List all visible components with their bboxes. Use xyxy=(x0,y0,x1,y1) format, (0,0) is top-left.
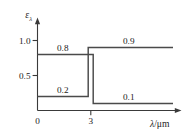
series-label-0-1: 0.1 xyxy=(123,92,135,102)
series-label-0-8: 0.8 xyxy=(57,43,69,53)
x-tick-label-3: 3 xyxy=(89,116,94,126)
series-label-0-9: 0.9 xyxy=(123,36,135,46)
y-axis-arrow-icon xyxy=(35,18,40,25)
chart-figure: 1.0 0.5 0 3 0.8 0.2 0.9 0.1 ελ λ/μm xyxy=(0,0,195,137)
x-axis-title-unit: /μm xyxy=(154,118,170,129)
axes-group xyxy=(33,18,182,116)
emissivity-step-plot: 1.0 0.5 0 3 0.8 0.2 0.9 0.1 ελ λ/μm xyxy=(0,0,195,137)
x-axis-title: λ/μm xyxy=(149,118,170,129)
y-axis-title: ελ xyxy=(25,9,32,22)
series-label-0-2: 0.2 xyxy=(57,85,69,95)
x-tick-label-0: 0 xyxy=(35,116,40,126)
x-axis-arrow-icon xyxy=(175,108,182,113)
y-axis-title-subscript: λ xyxy=(28,15,32,22)
y-tick-label-1-0: 1.0 xyxy=(19,36,31,46)
y-tick-label-0-5: 0.5 xyxy=(19,71,31,81)
